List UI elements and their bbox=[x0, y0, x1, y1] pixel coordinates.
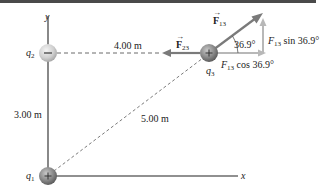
charge-q3 bbox=[200, 44, 218, 62]
distance-q2-q3: 4.00 m bbox=[114, 41, 142, 51]
q2-label: q2 bbox=[26, 48, 35, 60]
force-f23-label: → F23 bbox=[176, 40, 189, 52]
diagram-canvas bbox=[0, 0, 328, 196]
q1-label: q1 bbox=[26, 171, 35, 183]
x-axis-label: x bbox=[241, 171, 245, 181]
distance-q1-q3: 5.00 m bbox=[141, 114, 169, 124]
force-f13-label: → F13 bbox=[213, 16, 226, 28]
dashed-line-q1-q3 bbox=[54, 58, 203, 171]
q3-label: q3 bbox=[206, 66, 215, 78]
charge-q2 bbox=[39, 44, 57, 62]
horizontal-component-label: F13 cos 36.9° bbox=[221, 60, 274, 72]
vertical-component-arrow bbox=[260, 18, 267, 53]
y-axis-label: y bbox=[45, 12, 49, 22]
charge-q1 bbox=[39, 167, 57, 185]
distance-q1-q2: 3.00 m bbox=[14, 110, 42, 120]
angle-label: 36.9° bbox=[234, 40, 256, 50]
vertical-component-label: F13 sin 36.9° bbox=[268, 36, 319, 48]
